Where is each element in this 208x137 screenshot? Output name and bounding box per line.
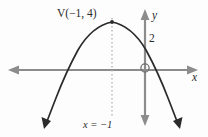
y-axis-bottom-arrowhead (141, 115, 150, 126)
parabola-curve (46, 22, 178, 124)
vertex-label: V(−1, 4) (57, 8, 97, 20)
y-axis-label: y (152, 10, 157, 22)
y-axis-top-arrowhead (141, 9, 150, 20)
parabola-right-arrowhead (173, 117, 183, 129)
x-axis-left-arrowhead (8, 66, 19, 75)
x-axis-label: x (192, 72, 197, 84)
parabola-figure: V(−1, 4) y x 2 x = −1 (0, 0, 208, 137)
axis-of-symmetry-label: x = −1 (83, 120, 112, 131)
y-intercept-value-label: 2 (149, 33, 155, 45)
parabola-left-arrowhead (42, 117, 52, 129)
graph-canvas (0, 0, 208, 137)
x-axis (8, 66, 198, 75)
vertex-point-marker (110, 20, 114, 24)
y-axis (141, 9, 150, 126)
